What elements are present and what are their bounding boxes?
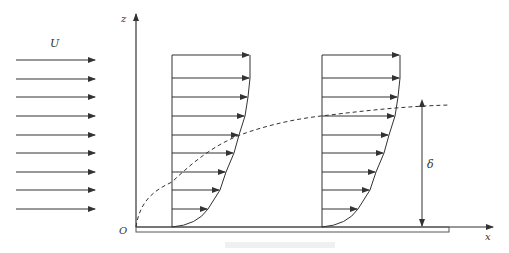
velocity-profiles: [172, 55, 400, 227]
z-axis-label: z: [120, 13, 127, 24]
freestream-arrows: [16, 60, 95, 209]
figure-caption: [225, 242, 335, 248]
flat-plate: [136, 227, 449, 232]
boundary-layer-diagram: U z x O δ: [0, 0, 509, 253]
origin-label: O: [119, 225, 127, 236]
x-axis-label: x: [485, 231, 491, 242]
freestream-label: U: [50, 37, 60, 50]
velocity-profile-curve: [322, 55, 400, 227]
thickness-label: δ: [427, 158, 434, 171]
velocity-profile-curve: [172, 55, 250, 227]
